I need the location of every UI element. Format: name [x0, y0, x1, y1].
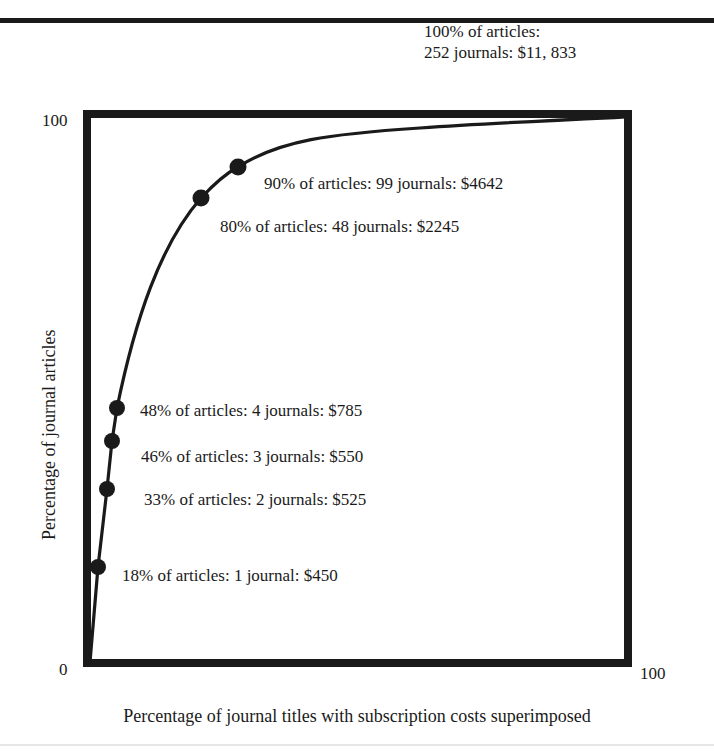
- x-tick-100: 100: [640, 665, 666, 682]
- annotation-80-percent: 80% of articles: 48 journals: $2245: [220, 218, 459, 235]
- data-point-18: [90, 559, 106, 575]
- y-tick-0: 0: [59, 661, 68, 678]
- y-tick-100: 100: [42, 112, 68, 129]
- annotation-46-percent: 46% of articles: 3 journals: $550: [141, 448, 363, 465]
- annotation-48-percent: 48% of articles: 4 journals: $785: [140, 402, 362, 419]
- bottom-rule: [0, 744, 714, 746]
- annotation-18-percent: 18% of articles: 1 journal: $450: [122, 567, 338, 584]
- data-point-48: [109, 400, 125, 416]
- annotation-33-percent: 33% of articles: 2 journals: $525: [144, 491, 366, 508]
- y-axis-label: Percentage of journal articles: [39, 330, 60, 540]
- x-axis-label: Percentage of journal titles with subscr…: [0, 706, 714, 727]
- data-point-80: [193, 190, 210, 207]
- data-point-33: [99, 481, 115, 497]
- chart-plot: [0, 0, 714, 752]
- data-point-46: [104, 433, 120, 449]
- annotation-90-percent: 90% of articles: 99 journals: $4642: [264, 175, 503, 192]
- data-point-90: [230, 159, 247, 176]
